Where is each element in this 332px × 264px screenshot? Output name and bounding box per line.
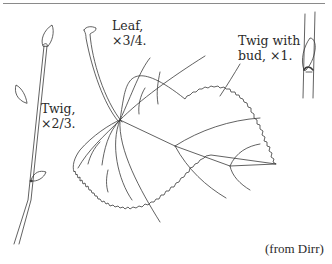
twig-label-name: Twig,	[41, 101, 76, 116]
bud-label-name: Twig with	[238, 33, 300, 48]
leaf-label: Leaf, ×3/4.	[112, 18, 147, 48]
bud-label: Twig with bud, ×1.	[238, 33, 300, 63]
twig-label: Twig, ×2/3.	[41, 101, 76, 131]
leaf-label-scale: ×3/4.	[112, 33, 147, 48]
twig-label-scale: ×2/3.	[41, 116, 76, 131]
bud-label-scale: bud, ×1.	[238, 48, 300, 63]
bud-closeup-drawing	[302, 12, 315, 98]
source-credit: (from Dirr)	[265, 241, 324, 257]
leaf-label-name: Leaf,	[112, 18, 147, 33]
twig-drawing	[14, 25, 53, 244]
